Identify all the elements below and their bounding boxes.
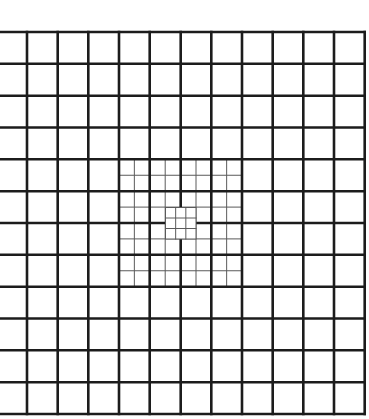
grid-canvas	[0, 0, 369, 419]
refined-grid-diagram	[0, 0, 369, 419]
center-patch-frame	[166, 208, 197, 240]
center-fine-patch	[166, 208, 197, 240]
